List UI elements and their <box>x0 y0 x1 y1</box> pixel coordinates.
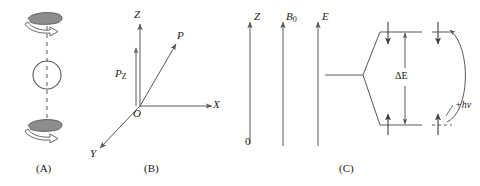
panel-caption-b: (B) <box>144 163 159 174</box>
component-pz-base: P <box>115 67 122 79</box>
origin-label: O <box>133 108 141 119</box>
axis-y-label: Y <box>90 148 96 159</box>
axis-z-label-c: Z <box>254 11 260 22</box>
vector-p-line <box>140 44 176 106</box>
axis-z-label: Z <box>134 9 140 20</box>
component-pz-subscript: Z <box>122 72 127 81</box>
axis-e-label: E <box>322 11 329 22</box>
fork-upper-branch <box>363 32 380 75</box>
panel-caption-a: (A) <box>36 163 51 174</box>
component-pz-label: PZ <box>115 68 127 81</box>
figure-vector-graphics <box>0 0 480 186</box>
panel-a-group <box>25 13 62 143</box>
axis-b0-label: B0 <box>286 11 297 24</box>
vector-p-label: P <box>177 30 184 41</box>
panel-c-axes-group <box>250 22 318 146</box>
delta-e-label: ΔE <box>395 71 408 81</box>
fork-lower-branch <box>363 75 380 125</box>
rotation-arrow-bottom-icon <box>25 120 62 143</box>
axis-b0-base: B <box>286 10 293 22</box>
panel-c-transition-group <box>432 22 465 135</box>
axis-b0-subscript: 0 <box>293 15 297 24</box>
axis-x-label: X <box>213 99 220 110</box>
photon-label-leader <box>446 105 453 116</box>
rotation-arrow-top-icon <box>25 13 62 36</box>
figure-container: Z X Y P O PZ Z 0 B0 E ΔE +hv (A) (B) (C) <box>0 0 480 186</box>
photon-energy-label: +hv <box>455 100 471 110</box>
panel-b-group <box>100 24 212 148</box>
panel-caption-c: (C) <box>339 163 354 174</box>
axis-z-zero-label: 0 <box>245 136 251 147</box>
